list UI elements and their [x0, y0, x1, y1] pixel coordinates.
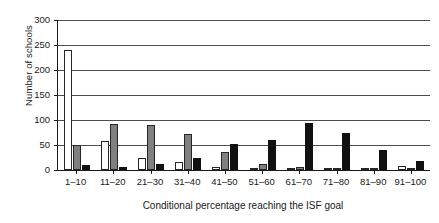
- bar-series-white: [361, 168, 369, 170]
- x-tick-mark: [225, 170, 226, 174]
- bar-series-gray: [147, 125, 155, 170]
- bar-series-white: [398, 166, 406, 170]
- x-tick-mark: [188, 170, 189, 174]
- bar-series-black: [156, 164, 164, 171]
- bar-series-gray: [184, 134, 192, 170]
- x-axis-title: Conditional percentage reaching the ISF …: [57, 200, 429, 211]
- bar-series-black: [268, 140, 276, 170]
- bar-group: [318, 20, 355, 170]
- bar-series-black: [416, 161, 424, 170]
- x-tick-mark: [374, 170, 375, 174]
- bar-series-white: [138, 158, 146, 171]
- x-tick-label: 51–60: [243, 176, 280, 190]
- bar-group: [281, 20, 318, 170]
- x-tick-label: 1–10: [57, 176, 94, 190]
- y-tick-label: 300: [22, 15, 50, 25]
- bar-series-black: [82, 165, 90, 170]
- y-tick-label: 150: [22, 90, 50, 100]
- y-tick-mark: [54, 170, 58, 171]
- x-tick-mark: [151, 170, 152, 174]
- bar-series-white: [64, 50, 72, 170]
- bar-group: [356, 20, 393, 170]
- x-tick-mark: [411, 170, 412, 174]
- bar-series-white: [287, 168, 295, 170]
- y-tick-label: 200: [22, 65, 50, 75]
- bar-series-gray: [221, 152, 229, 171]
- bar-series-white: [175, 162, 183, 171]
- bar-series-black: [305, 123, 313, 171]
- plot-area: [57, 20, 430, 171]
- bar-group: [170, 20, 207, 170]
- bar-series-white: [212, 167, 220, 171]
- x-tick-mark: [76, 170, 77, 174]
- x-tick-mark: [299, 170, 300, 174]
- y-axis-tick-labels: 050100150200250300: [22, 0, 50, 223]
- bar-groups: [58, 20, 430, 170]
- x-tick-mark: [262, 170, 263, 174]
- x-tick-mark: [113, 170, 114, 174]
- x-tick-label: 61–70: [280, 176, 317, 190]
- y-tick-label: 250: [22, 40, 50, 50]
- bar-series-black: [379, 150, 387, 170]
- y-tick-label: 0: [22, 165, 50, 175]
- bar-group: [244, 20, 281, 170]
- bar-series-black: [119, 167, 127, 171]
- x-tick-mark: [337, 170, 338, 174]
- bar-series-black: [230, 144, 238, 171]
- x-tick-label: 31–40: [169, 176, 206, 190]
- x-tick-label: 91–100: [392, 176, 429, 190]
- bar-group: [393, 20, 430, 170]
- y-tick-label: 100: [22, 115, 50, 125]
- chart-figure: Number of schools 050100150200250300 1–1…: [0, 0, 439, 223]
- bar-series-black: [342, 133, 350, 170]
- bar-series-gray: [110, 124, 118, 171]
- x-tick-label: 71–80: [317, 176, 354, 190]
- x-tick-label: 81–90: [355, 176, 392, 190]
- y-tick-label: 50: [22, 140, 50, 150]
- x-tick-label: 11–20: [94, 176, 131, 190]
- bar-group: [132, 20, 169, 170]
- x-tick-label: 21–30: [131, 176, 168, 190]
- bar-series-white: [101, 141, 109, 170]
- bar-group: [58, 20, 95, 170]
- bar-series-gray: [73, 145, 81, 170]
- x-tick-label: 41–50: [206, 176, 243, 190]
- bar-series-white: [324, 168, 332, 170]
- bar-series-black: [193, 158, 201, 170]
- bar-group: [207, 20, 244, 170]
- bar-series-white: [250, 168, 258, 171]
- x-axis-tick-labels: 1–1011–2021–3031–4041–5051–6061–7071–808…: [57, 176, 429, 190]
- bar-group: [95, 20, 132, 170]
